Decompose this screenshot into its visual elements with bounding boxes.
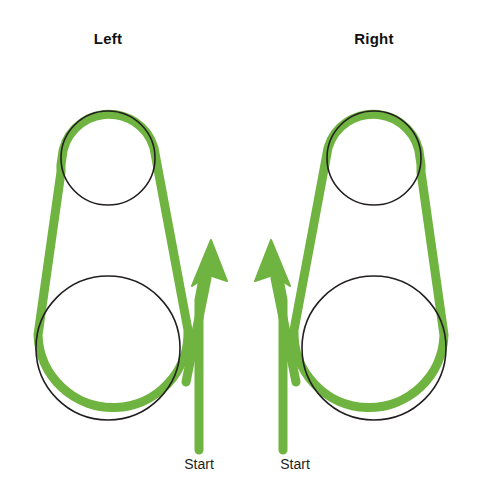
left-panel-title: Left <box>58 30 158 47</box>
diagram-canvas: Left Right Start Start <box>0 0 482 490</box>
right-panel-title: Right <box>324 30 424 47</box>
left-start-label: Start <box>159 456 239 472</box>
canvas-background <box>0 0 482 490</box>
belt-routing-illustration <box>0 0 482 490</box>
right-start-label: Start <box>255 456 335 472</box>
